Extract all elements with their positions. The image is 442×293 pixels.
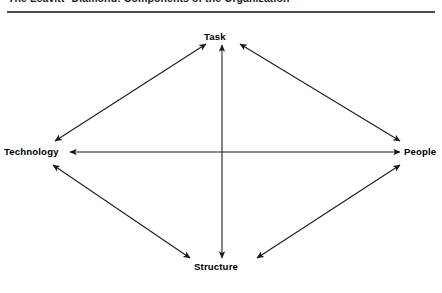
node-label-people: People	[404, 146, 436, 157]
figure-container: The LeavittDiamond: Components of the Or…	[0, 0, 442, 293]
leavitt-diamond-diagram: Task Technology People Structure	[0, 0, 442, 293]
node-label-structure: Structure	[194, 261, 238, 272]
edge-people-structure	[257, 165, 400, 258]
edge-technology-structure	[53, 165, 190, 258]
edge-task-people	[240, 44, 400, 141]
edge-task-technology	[55, 44, 206, 141]
node-label-task: Task	[204, 31, 226, 42]
diagram-canvas	[0, 0, 442, 293]
node-label-technology: Technology	[4, 146, 59, 157]
